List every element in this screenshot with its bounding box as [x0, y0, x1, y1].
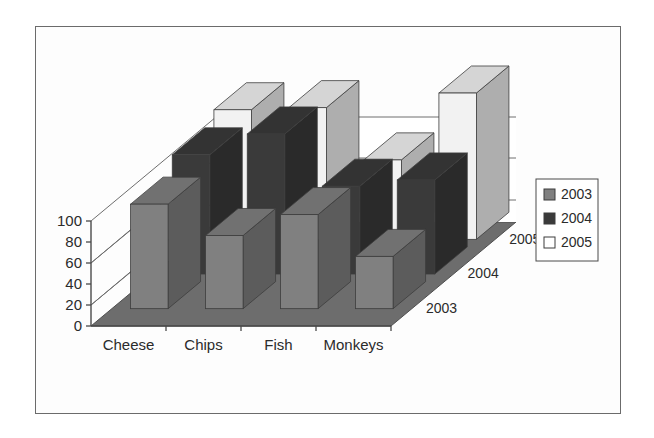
y-tick-label: 0 [74, 317, 82, 334]
bar-2003-Cheese [131, 177, 201, 309]
legend-swatch-2003[interactable] [544, 189, 555, 200]
y-tick-label: 60 [65, 254, 82, 271]
y-tick-label: 80 [65, 233, 82, 250]
x-category-label: Cheese [103, 336, 155, 353]
x-category-label: Monkeys [323, 336, 383, 353]
legend-label-2003[interactable]: 2003 [561, 186, 592, 202]
depth-axis-label: 2004 [468, 265, 499, 281]
bar-2003-Fish [281, 188, 351, 309]
depth-axis-label: 2003 [426, 300, 457, 316]
x-category-label: Fish [264, 336, 292, 353]
x-category-label: Chips [184, 336, 222, 353]
chart-svg: 020406080100 CheeseChipsFishMonkeys 2003… [36, 27, 622, 415]
legend-swatch-2004[interactable] [544, 213, 555, 224]
y-axis-ticks: 020406080100 [57, 212, 91, 334]
x-axis-categories: CheeseChipsFishMonkeys [103, 326, 391, 353]
legend-label-2004[interactable]: 2004 [561, 210, 592, 226]
chart-plot-area: 020406080100 CheeseChipsFishMonkeys 2003… [36, 27, 622, 415]
y-tick-label: 20 [65, 296, 82, 313]
legend-swatch-2005[interactable] [544, 237, 555, 248]
legend-label-2005[interactable]: 2005 [561, 234, 592, 250]
chart-frame: 020406080100 CheeseChipsFishMonkeys 2003… [35, 26, 621, 414]
y-tick-label: 40 [65, 275, 82, 292]
y-tick-label: 100 [57, 212, 82, 229]
chart-legend: 200320042005 [536, 179, 598, 261]
